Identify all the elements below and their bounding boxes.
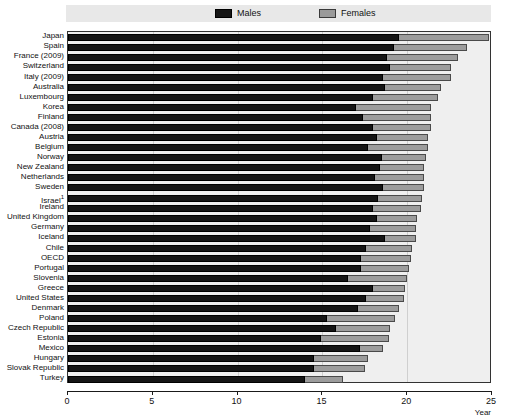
- bar-row: [68, 314, 492, 324]
- plot-wrapper: JapanSpainFrance (2009)SwitzerlandItaly …: [0, 31, 511, 391]
- category-label: OECD: [41, 253, 64, 263]
- bar-segment-females: [368, 144, 427, 151]
- footnote-marker: 1: [61, 194, 64, 200]
- bar-segment-females: [383, 74, 451, 81]
- bar-row: [68, 173, 492, 183]
- bar-row: [68, 344, 492, 354]
- legend-item-males: Males: [215, 5, 261, 22]
- bar-segment-males: [68, 114, 363, 121]
- bar-row: [68, 233, 492, 243]
- category-label: Denmark: [32, 303, 64, 313]
- bar-row: [68, 62, 492, 72]
- bar-segment-females: [387, 54, 458, 61]
- bar-row: [68, 92, 492, 102]
- bar-row: [68, 72, 492, 82]
- category-label: Switzerland: [23, 61, 64, 71]
- x-axis: Year 0510152025: [67, 391, 491, 418]
- bar-segment-females: [385, 84, 441, 91]
- bar-segment-males: [68, 184, 383, 191]
- bar-segment-females: [366, 295, 403, 302]
- bar-segment-males: [68, 174, 375, 181]
- bar-segment-females: [321, 335, 389, 342]
- category-label: Israel1: [41, 192, 64, 202]
- category-label: Korea: [43, 102, 64, 112]
- bar-segment-males: [68, 295, 366, 302]
- category-label: Hungary: [34, 353, 64, 363]
- bar-segment-males: [68, 315, 327, 322]
- category-label: Slovenia: [33, 273, 64, 283]
- category-label: Germany: [31, 222, 64, 232]
- bar-segment-males: [68, 255, 361, 262]
- x-axis-tick-label: 20: [401, 396, 411, 406]
- x-axis-tick-label: 5: [149, 396, 154, 406]
- bar-segment-females: [380, 164, 424, 171]
- bar-segment-males: [68, 154, 382, 161]
- bar-row: [68, 193, 492, 203]
- x-axis-tick: [152, 391, 153, 395]
- x-axis-title: Year: [475, 408, 491, 417]
- bar-segment-males: [68, 345, 360, 352]
- bar-row: [68, 183, 492, 193]
- bar-segment-males: [68, 275, 348, 282]
- chart-page: Males Females JapanSpainFrance (2009)Swi…: [0, 0, 511, 418]
- bar-segment-females: [373, 124, 431, 131]
- bar-segment-females: [336, 325, 390, 332]
- bar-segment-males: [68, 104, 356, 111]
- bar-row: [68, 334, 492, 344]
- bar-segment-females: [360, 345, 384, 352]
- x-axis-tick: [406, 391, 407, 395]
- category-label: Ireland: [40, 202, 64, 212]
- bar-segment-females: [361, 255, 410, 262]
- bar-segment-females: [378, 195, 422, 202]
- bar-segment-males: [68, 215, 377, 222]
- bar-segment-males: [68, 235, 385, 242]
- bar-segment-males: [68, 305, 358, 312]
- bar-segment-females: [348, 275, 407, 282]
- category-label: Norway: [37, 152, 64, 162]
- category-label: Japan: [42, 31, 64, 41]
- category-label: United States: [16, 293, 64, 303]
- bar-row: [68, 32, 492, 42]
- bar-segment-females: [377, 215, 418, 222]
- category-label: Estonia: [37, 333, 64, 343]
- bar-segment-females: [377, 134, 428, 141]
- bar-segment-females: [373, 205, 420, 212]
- x-axis-tick-label: 25: [486, 396, 496, 406]
- bar-segment-males: [68, 325, 336, 332]
- bar-segment-males: [68, 64, 390, 71]
- bar-segment-females: [385, 235, 416, 242]
- category-label: Finland: [38, 112, 64, 122]
- bar-segment-females: [363, 114, 431, 121]
- chart-legend: Males Females: [66, 5, 491, 22]
- bar-segment-males: [68, 54, 387, 61]
- bar-row: [68, 42, 492, 52]
- category-axis-labels: JapanSpainFrance (2009)SwitzerlandItaly …: [0, 31, 64, 383]
- bar-segment-males: [68, 245, 366, 252]
- bar-row: [68, 304, 492, 314]
- bar-segment-males: [68, 195, 378, 202]
- bar-row: [68, 213, 492, 223]
- bar-segment-females: [390, 64, 451, 71]
- bar-segment-females: [382, 154, 426, 161]
- bar-row: [68, 203, 492, 213]
- x-axis-line: [67, 391, 491, 392]
- x-axis-tick: [237, 391, 238, 395]
- bar-row: [68, 283, 492, 293]
- bar-segment-females: [370, 225, 416, 232]
- category-label: Slovak Republic: [7, 363, 64, 373]
- bar-segment-females: [358, 305, 399, 312]
- bar-segment-males: [68, 74, 383, 81]
- category-label: Spain: [44, 41, 64, 51]
- bar-segment-females: [399, 34, 489, 41]
- bar-segment-females: [361, 265, 408, 272]
- x-axis-tick: [491, 391, 492, 395]
- bar-segment-males: [68, 265, 361, 272]
- bar-segment-females: [314, 355, 368, 362]
- x-axis-tick: [321, 391, 322, 395]
- bar-row: [68, 253, 492, 263]
- category-label: Belgium: [35, 142, 64, 152]
- bar-row: [68, 243, 492, 253]
- bar-row: [68, 112, 492, 122]
- legend-label-males: Males: [237, 9, 261, 18]
- bar-segment-males: [68, 205, 373, 212]
